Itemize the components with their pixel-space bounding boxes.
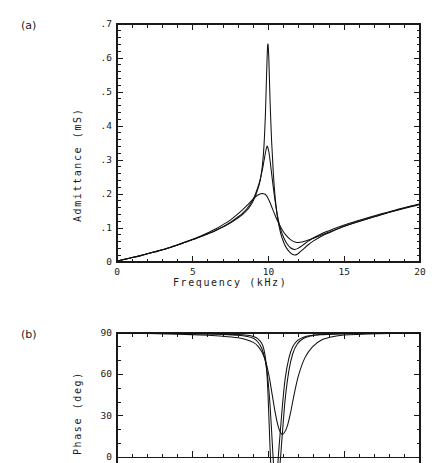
y-tick-label: .2: [0, 188, 112, 199]
y-tick-label: 0: [0, 451, 112, 462]
y-tick-label: .4: [0, 120, 112, 131]
y-tick-label: .3: [0, 154, 112, 165]
data-curve-curve-3-low-Q: [117, 194, 420, 261]
x-tick-label: 5: [163, 266, 223, 277]
data-curve-curve-2-medium-Q: [117, 146, 420, 261]
y-tick-label: .7: [0, 18, 112, 29]
x-tick-label: 10: [239, 266, 299, 277]
panel-a-x-axis-title: Frequency (kHz): [173, 277, 287, 288]
y-tick-label: 90: [0, 327, 112, 338]
data-curve-curve-1-high-Q: [117, 333, 420, 463]
y-tick-label: 30: [0, 410, 112, 421]
figure-container: (a) Admittance (mS) Frequency (kHz) (b) …: [0, 0, 441, 463]
y-tick-label: 60: [0, 368, 112, 379]
panel-a-plot: [117, 24, 420, 262]
panel-b-plot: [117, 333, 420, 463]
x-tick-label: 20: [390, 266, 441, 277]
x-tick-label: 0: [87, 266, 147, 277]
y-tick-label: .6: [0, 52, 112, 63]
y-tick-label: .5: [0, 86, 112, 97]
x-tick-label: 15: [314, 266, 374, 277]
y-tick-label: .1: [0, 222, 112, 233]
